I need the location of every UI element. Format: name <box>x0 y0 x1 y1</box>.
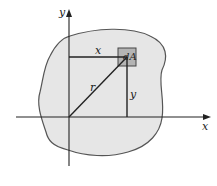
diagram-canvas: y x x y r dA <box>0 0 217 186</box>
y-axis-label: y <box>58 6 66 19</box>
y-axis-arrow-icon <box>66 9 72 17</box>
y-distance-label: y <box>129 88 137 101</box>
element-label: dA <box>123 51 137 62</box>
x-distance-label: x <box>95 44 102 57</box>
x-axis-label: x <box>202 120 209 133</box>
radius-label: r <box>90 81 96 94</box>
area-region <box>39 29 166 155</box>
